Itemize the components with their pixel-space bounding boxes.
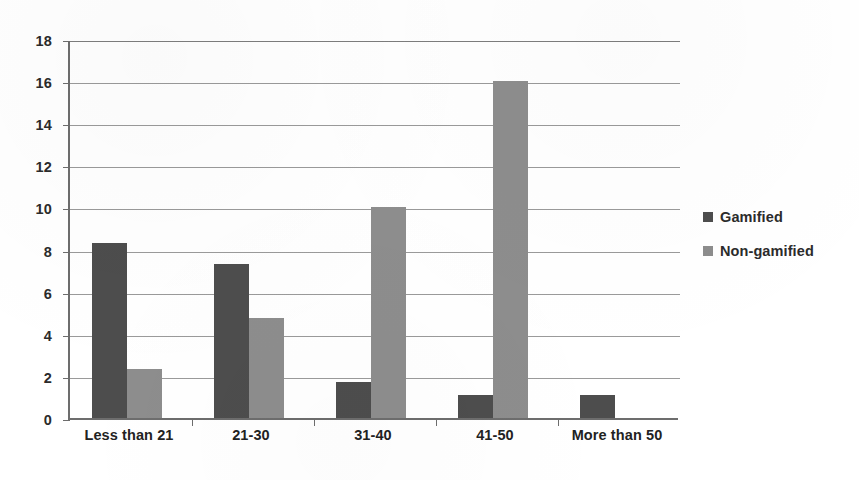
legend-item-label: Gamified (720, 209, 783, 225)
bar-gamified-1 (214, 264, 249, 418)
x-axis-tick-label: More than 50 (556, 427, 678, 443)
y-axis-tick (63, 83, 70, 84)
bar-non-gamified-2 (371, 207, 406, 418)
y-axis-tick (63, 294, 70, 295)
y-axis-tick-label: 10 (12, 202, 52, 217)
y-axis-tick (63, 167, 70, 168)
bar-gamified-0 (92, 243, 127, 418)
gridline (70, 125, 680, 126)
y-axis-tick (63, 420, 70, 421)
gridline (70, 83, 680, 84)
x-axis-tick-label: Less than 21 (68, 427, 190, 443)
bar-gamified-4 (580, 395, 615, 418)
legend-swatch-icon (703, 246, 713, 256)
y-axis-tick-label: 12 (12, 160, 52, 175)
gridline (70, 41, 680, 42)
x-axis-tick (558, 418, 559, 426)
chart-legend: GamifiedNon-gamified (703, 209, 853, 277)
x-axis-tick (436, 418, 437, 426)
bar-gamified-2 (336, 382, 371, 418)
x-axis-tick-label: 21-30 (190, 427, 312, 443)
x-axis-tick (314, 418, 315, 426)
x-axis-tick (192, 418, 193, 426)
y-axis-tick-label: 16 (12, 76, 52, 91)
bar-non-gamified-0 (127, 369, 162, 418)
legend-item-label: Non-gamified (720, 243, 814, 259)
y-axis-tick-label: 18 (12, 34, 52, 49)
bar-non-gamified-1 (249, 318, 284, 418)
legend-item[interactable]: Non-gamified (703, 243, 853, 259)
y-axis-tick-label: 2 (12, 371, 52, 386)
y-axis-tick (63, 209, 70, 210)
legend-swatch-icon (703, 212, 713, 222)
x-axis-tick-label: 31-40 (312, 427, 434, 443)
y-axis-tick-label: 8 (12, 245, 52, 260)
y-axis-tick-label: 6 (12, 287, 52, 302)
y-axis-tick-label: 14 (12, 118, 52, 133)
y-axis-tick (63, 41, 70, 42)
y-axis-tick-label: 0 (12, 413, 52, 428)
x-axis-tick-label: 41-50 (434, 427, 556, 443)
bar-gamified-3 (458, 395, 493, 418)
bar-non-gamified-3 (493, 81, 528, 418)
y-axis-tick (63, 378, 70, 379)
plot-area (68, 41, 678, 420)
legend-item[interactable]: Gamified (703, 209, 853, 225)
y-axis-tick-label: 4 (12, 329, 52, 344)
y-axis-tick (63, 125, 70, 126)
y-axis-tick (63, 252, 70, 253)
gridline (70, 167, 680, 168)
bar-chart: 024681012141618 Less than 2121-3031-4041… (0, 0, 859, 480)
y-axis-tick (63, 336, 70, 337)
